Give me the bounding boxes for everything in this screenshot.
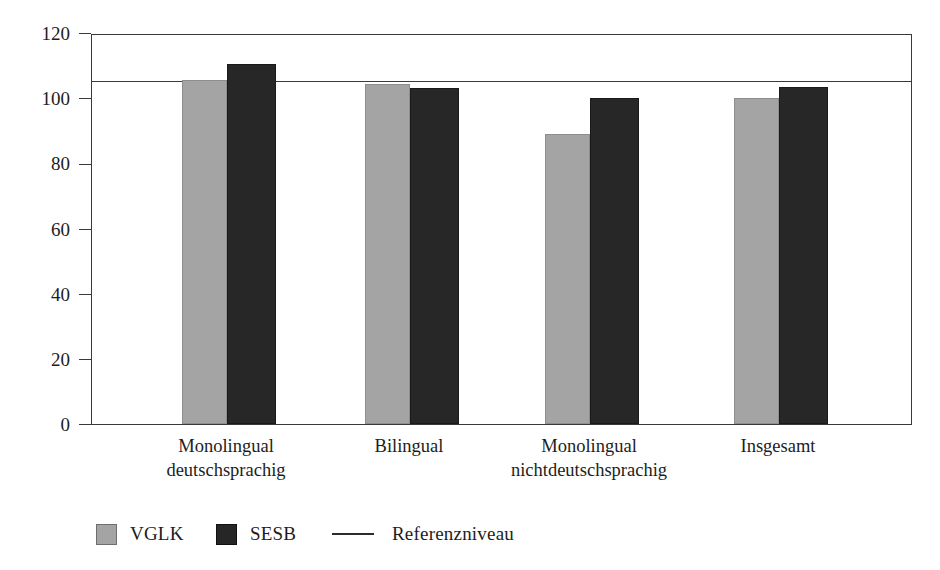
legend-swatch-sesb [216,524,237,545]
category-label-line1: Insgesamt [618,434,938,458]
y-axis-tick-mark [79,424,91,425]
bar-vglk [182,80,227,424]
y-axis-tick-label: 100 [10,89,70,108]
legend-swatch-vglk [96,524,117,545]
bar-vglk [734,98,779,424]
bar-vglk [545,134,590,424]
bar-sesb [590,98,639,424]
y-axis-tick-mark [79,98,91,99]
bar-sesb [779,87,828,424]
plot-area [91,34,912,425]
bar-vglk [365,84,410,424]
y-axis-ticks: 020406080100120 [0,0,91,570]
bar-sesb [410,88,459,424]
category-label-line2: deutschsprachig [66,458,386,482]
y-axis-tick-mark [79,294,91,295]
bar-chart-figure: Mathematikleistung 020406080100120 Monol… [0,0,940,570]
legend-item: VGLK [96,518,184,550]
y-axis-tick-label: 0 [10,415,70,434]
y-axis-tick-label: 80 [10,154,70,173]
x-axis-category-label: Insgesamt [618,434,938,458]
legend-line-referenzniveau [332,533,374,535]
y-axis-tick-mark [79,33,91,34]
y-axis-tick-label: 120 [10,24,70,43]
legend-label: Referenzniveau [392,523,514,545]
y-axis-tick-mark [79,229,91,230]
legend-label: VGLK [130,523,184,545]
y-axis-tick-label: 20 [10,350,70,369]
y-axis-tick-label: 40 [10,285,70,304]
legend-label: SESB [250,523,296,545]
y-axis-tick-mark [79,359,91,360]
y-axis-tick-label: 60 [10,220,70,239]
category-label-line2: nichtdeutschsprachig [429,458,749,482]
legend-item: Referenzniveau [332,518,514,550]
legend-item: SESB [216,518,296,550]
y-axis-tick-mark [79,164,91,165]
bar-sesb [227,64,276,424]
